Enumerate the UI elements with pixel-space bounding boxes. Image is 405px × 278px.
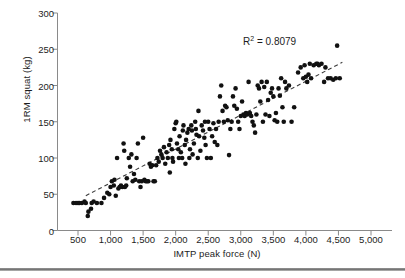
y-tick-label: 100 — [28, 153, 54, 164]
y-tick-label: 200 — [28, 80, 54, 91]
y-tick-label: 150 — [28, 116, 54, 127]
footer-divider — [0, 268, 405, 271]
x-axis-tick-labels: 5001,0001,5002,0002,5003,0003,5004,0004,… — [0, 234, 405, 250]
chart-figure: 1RM squat (kg) IMTP peak force (N) 05010… — [0, 0, 405, 278]
y-tick-label: 50 — [28, 189, 54, 200]
r-squared-annotation: R2 = 0.8079 — [243, 36, 296, 47]
y-tick-label: 300 — [28, 8, 54, 19]
data-points — [71, 43, 342, 218]
y-tick-label: 250 — [28, 44, 54, 55]
x-tick-label: 5,000 — [349, 234, 393, 245]
r-squared-value: = 0.8079 — [254, 36, 296, 47]
